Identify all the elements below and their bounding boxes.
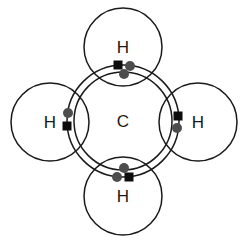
carbon-electron-left-square [63,122,72,131]
hydrogen-right-label: H [192,113,204,132]
hydrogen-bottom-label: H [117,187,129,206]
shell-electron-upper-dot [119,69,129,79]
methane-molecule-diagram: H H H H C [0,0,247,241]
hydrogen-electron-top-dot [125,61,135,71]
methane-diagram-canvas: H H H H C [0,0,247,241]
carbon-electron-bottom-square [125,173,134,182]
carbon-label: C [117,112,129,131]
hydrogen-left-label: H [44,113,56,132]
carbon-electron-top-square [114,61,123,70]
shell-electron-lower-dot [119,163,129,173]
carbon-electron-right-square [174,112,183,121]
hydrogen-electron-left-dot [63,108,73,118]
hydrogen-top-label: H [117,38,129,57]
hydrogen-electron-right-dot [172,123,182,133]
hydrogen-electron-bottom-dot [112,172,122,182]
